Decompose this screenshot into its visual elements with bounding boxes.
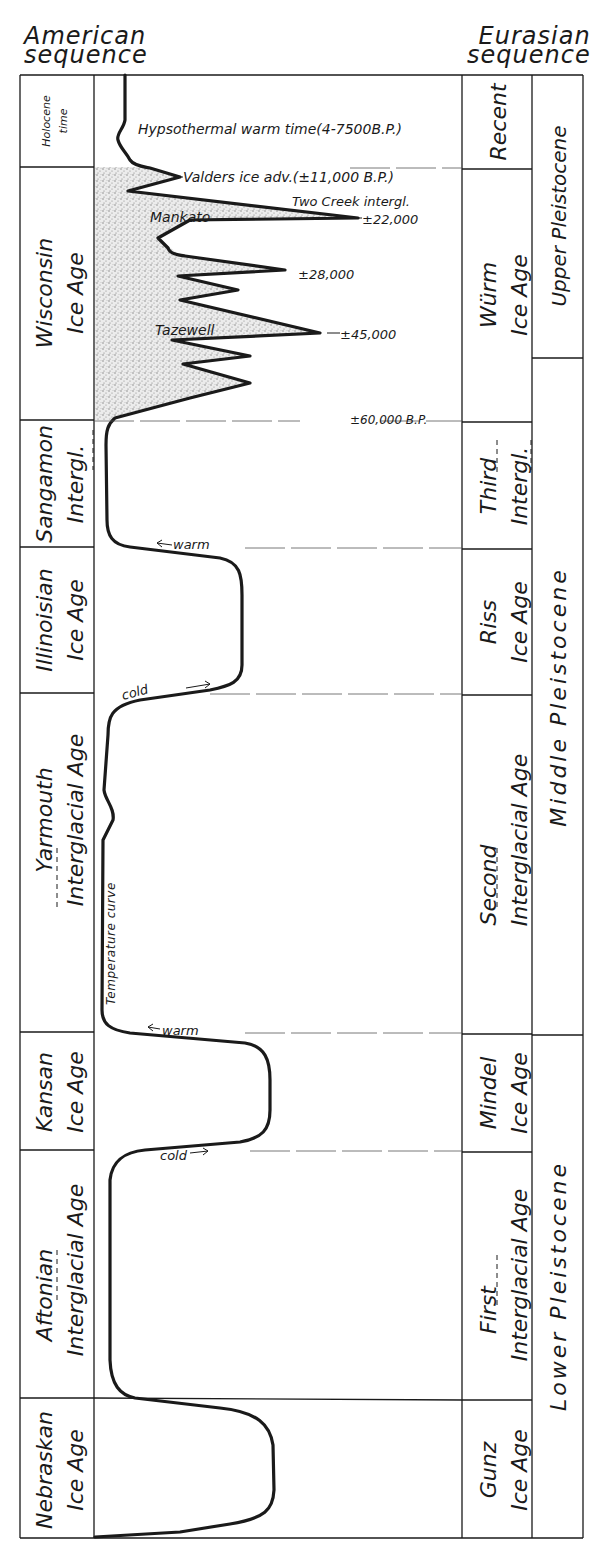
annotation-28000: ±28,000 <box>298 267 354 282</box>
annotation-60000: ±60,000 B.P. <box>350 413 427 427</box>
label-riss: Riss <box>476 600 501 644</box>
label-recent: Recent <box>486 82 511 160</box>
label-sangamon: Sangamon <box>32 425 57 543</box>
label-yarmouth-interglacial-age: Interglacial Age <box>63 734 88 907</box>
label-wisconsin: Wisconsin <box>32 238 57 348</box>
label-third-intergl: Intergl. <box>507 447 532 526</box>
label-yarmouth: Yarmouth <box>32 767 57 872</box>
label-wisconsin-ice-age: Ice Age <box>63 252 88 334</box>
arrow-left-icon <box>148 1024 160 1031</box>
label-kansan-ice-age: Ice Age <box>63 1051 88 1133</box>
label-gunz: Gunz <box>476 1441 501 1498</box>
label-third: Third <box>476 457 501 515</box>
annotation-warm-1: warm <box>173 537 210 552</box>
label-second: Second <box>476 843 501 925</box>
label-riss-ice-age: Ice Age <box>507 581 532 663</box>
label-lower-pleistocene: Lower Pleistocene <box>546 1161 571 1411</box>
label-illinoisian: Illinoisian <box>32 568 57 671</box>
label-holocene: Holocene <box>40 95 53 147</box>
label-nebraskan: Nebraskan <box>32 1411 57 1529</box>
american-sequence-labels: Holocene time Wisconsin Ice Age Sangamon… <box>32 95 88 1529</box>
label-wurm: Würm <box>476 262 501 328</box>
annotation-cold-2: cold <box>160 1148 188 1163</box>
annotation-temperature-curve: Temperature curve <box>104 882 118 1005</box>
label-sangamon-intergl: Intergl. <box>63 445 88 524</box>
label-gunz-ice-age: Ice Age <box>507 1429 532 1511</box>
annotation-mankato: Mankato <box>150 209 210 225</box>
pleistocene-chronology-diagram: Holocene time Wisconsin Ice Age Sangamon… <box>0 0 602 1565</box>
arrow-right-icon <box>190 1148 208 1155</box>
annotation-45000: ±45,000 <box>340 327 396 342</box>
label-mindel: Mindel <box>476 1057 501 1130</box>
annotation-22000: ±22,000 <box>362 212 418 227</box>
dashed-subdividers <box>57 430 531 1305</box>
label-illinoisian-ice-age: Ice Age <box>63 579 88 661</box>
annotation-tazewell: Tazewell <box>155 322 215 338</box>
label-upper-pleistocene: Upper Pleistocene <box>547 125 571 306</box>
eurasian-sequence-labels: Recent Würm Ice Age Third Intergl. Riss … <box>476 82 532 1511</box>
label-first-interglacial-age: Interglacial Age <box>507 1189 532 1362</box>
label-holocene-time: time <box>57 108 70 133</box>
label-first: First <box>476 1285 501 1334</box>
annotation-hypsothermal: Hypsothermal warm time(4-7500B.P.) <box>138 121 402 137</box>
annotation-two-creek: Two Creek intergl. <box>292 194 410 209</box>
label-mindel-ice-age: Ice Age <box>507 1052 532 1134</box>
label-wurm-ice-age: Ice Age <box>507 254 532 336</box>
arrow-left-icon <box>157 540 172 547</box>
label-second-interglacial-age: Interglacial Age <box>507 754 532 927</box>
label-kansan: Kansan <box>32 1052 57 1132</box>
label-nebraskan-ice-age: Ice Age <box>63 1429 88 1511</box>
label-aftonian: Aftonian <box>32 1249 57 1343</box>
arrow-right-icon <box>186 681 210 688</box>
annotation-warm-2: warm <box>162 1023 199 1038</box>
annotation-valders: Valders ice adv.(±11,000 B.P.) <box>183 169 394 185</box>
label-aftonian-interglacial-age: Interglacial Age <box>63 1184 88 1357</box>
epoch-labels: Upper Pleistocene Middle Pleistocene Low… <box>546 125 571 1411</box>
label-middle-pleistocene: Middle Pleistocene <box>546 567 571 826</box>
